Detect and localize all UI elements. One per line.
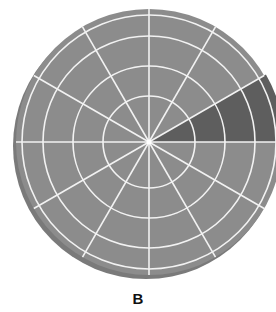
center-point bbox=[147, 140, 152, 145]
polar-grid-diagram bbox=[0, 0, 276, 312]
figure-label: B bbox=[0, 290, 276, 307]
